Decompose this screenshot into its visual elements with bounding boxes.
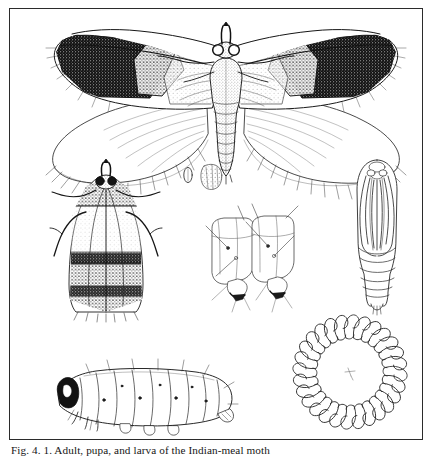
figure-caption-text: Fig. 4. 1. Adult, pupa, and larva of the…: [11, 444, 270, 456]
plate-frame: [9, 8, 423, 440]
figure-caption: Fig. 4. 1. Adult, pupa, and larva of the…: [11, 444, 431, 456]
